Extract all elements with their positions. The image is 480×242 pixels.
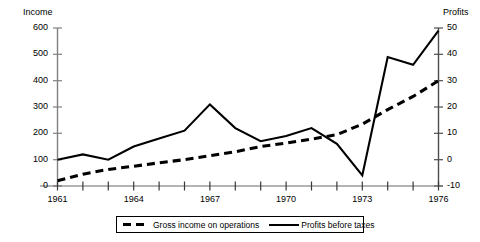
right-tick-label-minus10: -10: [447, 180, 477, 190]
dashed-line-swatch-icon: [123, 223, 149, 226]
x-tick-label-1976: 1976: [419, 194, 459, 204]
solid-line-swatch-icon: [269, 224, 299, 226]
left-tick-label-0: 0: [22, 180, 48, 190]
x-tick-label-1970: 1970: [266, 194, 306, 204]
right-tick-label-40: 40: [447, 48, 477, 58]
x-tick-label-1964: 1964: [114, 194, 154, 204]
left-tick-label-600: 600: [22, 22, 48, 32]
left-tick-label-300: 300: [22, 101, 48, 111]
legend-entry-profits: Profits before taxes: [259, 217, 374, 232]
legend-label-profits: Profits before taxes: [301, 220, 374, 230]
left-tick-label-100: 100: [22, 154, 48, 164]
series-line-profits-before-taxes: [58, 31, 439, 176]
series-line-gross-income-on-operations: [58, 81, 439, 181]
right-tick-label-30: 30: [447, 75, 477, 85]
chart-legend: Gross income on operations Profits befor…: [116, 216, 364, 233]
right-tick-label-10: 10: [447, 127, 477, 137]
left-tick-label-200: 200: [22, 127, 48, 137]
right-tick-label-50: 50: [447, 22, 477, 32]
x-tick-label-1973: 1973: [342, 194, 382, 204]
left-tick-label-400: 400: [22, 75, 48, 85]
legend-label-gross-income: Gross income on operations: [153, 220, 259, 230]
right-tick-label-20: 20: [447, 101, 477, 111]
x-tick-label-1961: 1961: [38, 194, 78, 204]
x-tick-label-1967: 1967: [190, 194, 230, 204]
chart-container: Income Profits: [0, 0, 480, 242]
plot-area: [0, 0, 480, 242]
left-tick-label-500: 500: [22, 48, 48, 58]
legend-entry-gross-income: Gross income on operations: [117, 217, 259, 232]
right-tick-label-0: 0: [447, 154, 477, 164]
